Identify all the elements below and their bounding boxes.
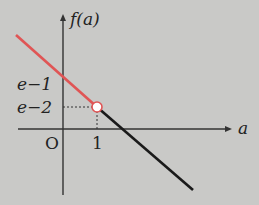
y-tick-label-e-minus-1: e−1 <box>17 74 52 94</box>
function-graph: f(a) a O 1 e−1 e−2 <box>0 0 259 205</box>
x-tick-label: 1 <box>92 133 103 153</box>
open-point <box>92 102 102 112</box>
y-tick-label-e-minus-2: e−2 <box>17 97 52 117</box>
right-segment <box>97 107 193 190</box>
x-axis-arrow-icon <box>225 126 232 132</box>
y-axis-arrow-icon <box>60 14 66 21</box>
x-axis-label: a <box>238 118 248 138</box>
origin-label: O <box>45 133 59 153</box>
y-axis-label: f(a) <box>68 9 100 29</box>
